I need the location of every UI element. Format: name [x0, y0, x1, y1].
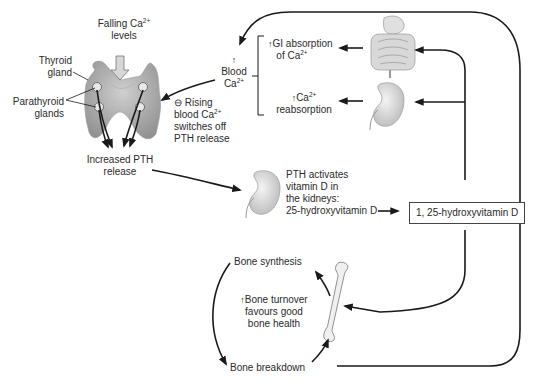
to-synthesis-arrow [316, 272, 330, 296]
bone-synthesis-label: Bone synthesis [234, 256, 302, 268]
bone-breakdown-label: Bone breakdown [230, 362, 305, 374]
blood-ca-label: ↑ Blood Ca2+ [216, 54, 252, 90]
thyroid-pointer [73, 72, 88, 80]
kidney-activation-icon [246, 171, 280, 218]
pth-to-kidney-arrow [152, 170, 240, 190]
falling-ca-label: Falling Ca2+ levels [92, 18, 156, 42]
intestine-icon [371, 16, 415, 78]
parathyroid-label: Parathyroidglands [8, 96, 64, 120]
thyroid-label: Thyroidgland [34, 55, 72, 79]
rising-feedback-label: ⊖ Rising blood Ca2+ switches off PTH rel… [174, 97, 230, 145]
active-vitamin-d-box: 1, 25-hydroxyvitamin D [409, 202, 525, 224]
effects-bracket [252, 36, 264, 115]
vitd-to-bone-arrow [345, 230, 465, 312]
pth-activates-label: PTH activates vitamin D in the kidneys: … [286, 169, 377, 217]
gi-absorption-label: ↑GI absorption of Ca2+ [268, 38, 333, 62]
synthesis-to-breakdown-arrow [213, 263, 230, 364]
breakdown-to-bone-arrow [312, 340, 328, 362]
increased-pth-label: Increased PTHrelease [82, 154, 158, 178]
bone-turnover-label: ↑Bone turnover favours good bone health [234, 294, 314, 330]
bone-icon [324, 262, 348, 341]
pth-calcium-diagram: Falling Ca2+ levels Thyroidgland Parathy… [0, 0, 537, 381]
vitd-to-gi-arrow [416, 50, 465, 180]
kidney-icon [370, 83, 404, 130]
reabsorption-label: ↑Ca2+ reabsorption [272, 92, 336, 116]
